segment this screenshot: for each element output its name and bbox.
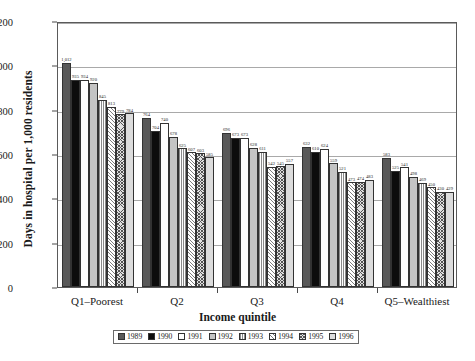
bar-value-label: 583 (383, 153, 390, 158)
bar-1995[interactable]: 474 (356, 182, 365, 287)
bar-1996[interactable]: 483 (365, 180, 374, 287)
bar-value-label: 430 (437, 187, 444, 192)
legend-label: 1995 (308, 333, 323, 341)
bar-value-label: 673 (241, 133, 248, 138)
y-tick-label: 800 (0, 105, 13, 116)
bar-1994[interactable]: 450 (427, 187, 436, 287)
legend-item-1990[interactable]: 1990 (148, 333, 172, 341)
bar-value-label: 498 (410, 172, 417, 177)
bar-1994[interactable]: 813 (107, 107, 116, 287)
bar-1994[interactable]: 607 (187, 152, 196, 287)
bar-1990[interactable]: 673 (231, 138, 240, 287)
legend-item-1993[interactable]: 1993 (239, 333, 263, 341)
x-tick-label: Q3 (250, 295, 263, 307)
bar-slot: 583 (382, 23, 391, 287)
bar-slot: 935 (71, 23, 80, 287)
bar-1989[interactable]: 583 (382, 158, 391, 287)
bar-slot: 696 (222, 23, 231, 287)
bar-value-label: 603 (197, 149, 204, 154)
y-tick-label: 1,000 (0, 61, 13, 72)
bar-group: 696673673628611542545557 (218, 23, 298, 287)
bar-slot: 625 (178, 23, 187, 287)
bar-1992[interactable]: 678 (169, 137, 178, 287)
bar-1993[interactable]: 845 (98, 100, 107, 287)
legend-item-1996[interactable]: 1996 (329, 333, 353, 341)
bar-value-label: 559 (330, 159, 337, 164)
y-tick-label: 0 (0, 283, 13, 294)
bar-1993[interactable]: 469 (418, 183, 427, 287)
bar-1994[interactable]: 473 (347, 182, 356, 287)
bar-1996[interactable]: 585 (205, 157, 214, 287)
legend-swatch-light-gray-solid (209, 333, 216, 340)
bar-value-label: 525 (392, 166, 399, 171)
bar-1989[interactable]: 632 (302, 147, 311, 287)
bar-1996[interactable]: 557 (285, 164, 294, 287)
bar-value-label: 541 (401, 163, 408, 168)
legend-item-1989[interactable]: 1989 (118, 333, 142, 341)
bar-value-label: 845 (99, 95, 106, 100)
bar-value-label: 813 (108, 102, 115, 107)
bar-1996[interactable]: 429 (445, 192, 454, 287)
bar-value-label: 474 (357, 177, 364, 182)
bar-1995[interactable]: 603 (196, 153, 205, 287)
bar-1993[interactable]: 521 (338, 172, 347, 287)
x-axis-title: Income quintile (0, 311, 475, 323)
y-tick-label: 600 (0, 150, 13, 161)
bar-1990[interactable]: 935 (71, 80, 80, 287)
legend-item-1991[interactable]: 1991 (178, 333, 202, 341)
bar-value-label: 625 (179, 144, 186, 149)
bar-slot: 545 (276, 23, 285, 287)
legend-item-1992[interactable]: 1992 (209, 333, 233, 341)
bar-slot: 678 (169, 23, 178, 287)
bar-1989[interactable]: 764 (142, 118, 151, 287)
bar-1991[interactable]: 541 (400, 167, 409, 287)
legend-swatch-vertical-hatch (239, 333, 246, 340)
bar-value-label: 704 (152, 126, 159, 131)
legend-label: 1991 (187, 333, 202, 341)
bar-1990[interactable]: 525 (391, 171, 400, 287)
bar-1995[interactable]: 430 (436, 192, 445, 287)
bar-1995[interactable]: 545 (276, 166, 285, 287)
bar-slot: 1,012 (62, 23, 71, 287)
x-tick-mark (377, 288, 378, 293)
bar-1994[interactable]: 542 (267, 167, 276, 287)
legend-label: 1989 (127, 333, 142, 341)
bar-1991[interactable]: 624 (320, 149, 329, 287)
bar-value-label: 585 (206, 153, 213, 158)
legend-label: 1990 (157, 333, 172, 341)
x-tick-mark (297, 288, 298, 293)
bar-1989[interactable]: 1,012 (62, 63, 71, 287)
bar-1989[interactable]: 696 (222, 133, 231, 287)
bar-value-label: 624 (321, 144, 328, 149)
bar-slot: 542 (267, 23, 276, 287)
x-tick-label: Q4 (330, 295, 343, 307)
x-tick-mark (217, 288, 218, 293)
bar-slot: 628 (249, 23, 258, 287)
bar-1990[interactable]: 610 (311, 152, 320, 287)
bar-1993[interactable]: 611 (258, 152, 267, 287)
bar-chart: Days in hospital per 1,000 residents 020… (0, 0, 475, 361)
bar-value-label: 429 (446, 187, 453, 192)
bar-slot: 483 (365, 23, 374, 287)
bar-1996[interactable]: 784 (125, 113, 134, 287)
bar-value-label: 784 (126, 109, 133, 114)
bar-1991[interactable]: 740 (160, 123, 169, 287)
bar-1995[interactable]: 779 (116, 114, 125, 287)
bar-1992[interactable]: 498 (409, 177, 418, 287)
bar-value-label: 611 (259, 147, 266, 152)
bar-slot: 624 (320, 23, 329, 287)
bar-value-label: 628 (250, 143, 257, 148)
bar-value-label: 935 (72, 75, 79, 80)
legend-swatch-black-solid (148, 333, 155, 340)
bar-1991[interactable]: 934 (80, 80, 89, 287)
bar-1992[interactable]: 920 (89, 83, 98, 287)
legend-item-1994[interactable]: 1994 (269, 333, 293, 341)
bar-1992[interactable]: 559 (329, 163, 338, 287)
bar-1991[interactable]: 673 (240, 138, 249, 287)
bar-1990[interactable]: 704 (151, 131, 160, 287)
legend-item-1995[interactable]: 1995 (299, 333, 323, 341)
bar-slot: 632 (302, 23, 311, 287)
bar-value-label: 779 (117, 110, 124, 115)
bar-1992[interactable]: 628 (249, 148, 258, 287)
bar-1993[interactable]: 625 (178, 148, 187, 287)
